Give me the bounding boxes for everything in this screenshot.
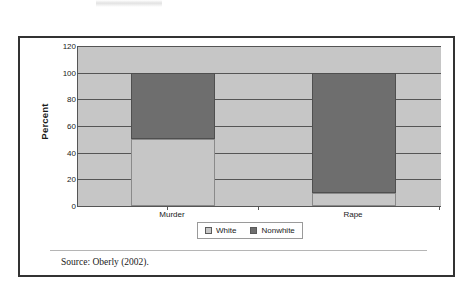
y-tick-label-100: 100: [63, 68, 76, 77]
legend-entry-nonwhite[interactable]: Nonwhite: [250, 226, 294, 235]
x-axis-label-murder: Murder: [159, 210, 184, 219]
y-tick-label-80: 80: [67, 95, 76, 104]
legend-swatch-white-icon: [205, 227, 212, 234]
bar-rape[interactable]: [312, 73, 396, 206]
plot-area: [77, 46, 441, 206]
y-tick-label-20: 20: [67, 175, 76, 184]
y-axis-tick-labels: 0 20 40 60 80 100 120: [56, 46, 76, 206]
x-tick-mark-center: [258, 206, 259, 210]
x-tick-mark-end: [439, 206, 440, 210]
source-divider: [50, 250, 427, 251]
legend-entry-white[interactable]: White: [205, 226, 236, 235]
legend-label-white: White: [216, 226, 236, 235]
axis-baseline-0: [78, 206, 441, 207]
bar-murder[interactable]: [131, 73, 215, 206]
legend-swatch-nonwhite-icon: [250, 227, 257, 234]
bar-segment-rape-white[interactable]: [312, 193, 396, 206]
bar-segment-rape-nonwhite[interactable]: [312, 73, 396, 193]
page-text-remnant: [96, 0, 162, 7]
y-tick-label-60: 60: [67, 122, 76, 131]
figure-frame: Percent 0 20 40 60 80 100 120: [18, 36, 455, 277]
chart-legend: White Nonwhite: [197, 222, 303, 239]
gridline-120: [78, 46, 441, 47]
bar-segment-murder-nonwhite[interactable]: [131, 73, 215, 140]
source-note: Source: Oberly (2002).: [61, 257, 149, 267]
x-axis-label-rape: Rape: [343, 210, 362, 219]
y-tick-label-40: 40: [67, 148, 76, 157]
chart-plot: Percent 0 20 40 60 80 100 120: [20, 38, 457, 246]
y-axis-title: Percent: [39, 92, 50, 152]
bar-segment-murder-white[interactable]: [131, 139, 215, 206]
y-tick-label-120: 120: [63, 42, 76, 51]
legend-label-nonwhite: Nonwhite: [261, 226, 294, 235]
y-tick-label-0: 0: [72, 202, 76, 211]
